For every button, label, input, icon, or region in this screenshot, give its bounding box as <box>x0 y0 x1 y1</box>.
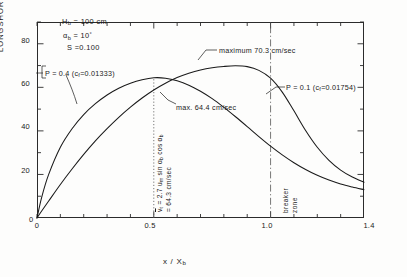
x-axis-label-text: x / X <box>163 257 183 266</box>
annotation-breaker-word: breaker <box>282 188 289 213</box>
annotation-p01-post: =0.01754) <box>321 83 356 92</box>
annotation-maximum-644: max. 64.4 cm/sec <box>176 103 236 112</box>
param-alphab-degree: ° <box>90 31 93 37</box>
param-alphab-value: = 10 <box>74 31 90 40</box>
leader-p04 <box>66 75 77 104</box>
mean-v-sub-b1: b <box>158 157 164 160</box>
param-S-symbol: S <box>67 43 72 52</box>
annotation-p01-pre: P = 0.1 (c <box>286 83 319 92</box>
mean-v-sub-m: m <box>158 178 164 182</box>
leader-p01 <box>266 87 285 94</box>
annotation-p04-pre: P = 0.4 (c <box>45 69 78 78</box>
annotation-zone-word: zone <box>291 197 298 213</box>
annotation-maximum-703: maximum 70.3 cm/sec <box>219 46 296 55</box>
mean-v-coef: = 2.7 u <box>156 182 163 207</box>
annotation-p04-post: =0.01333) <box>80 69 115 78</box>
mean-v-cos: cos α <box>156 137 163 157</box>
annotation-curve-p04: P = 0.4 (cf=0.01333) <box>45 69 115 78</box>
param-Hb-value: = 100 cm <box>74 17 107 26</box>
x-tick-14: 1.4 <box>356 221 382 230</box>
param-breaker-height: Hb = 100 cm <box>62 17 107 29</box>
x-tick-05: 0.5 <box>137 221 163 230</box>
y-tick-20: 20 <box>8 166 30 175</box>
parameter-block: Hb = 100 cm αb = 10° S =0.100 <box>62 17 107 54</box>
leader-maximum-644 <box>160 92 176 104</box>
y-axis-label: LONGSHORE CURRENT VELOCITY, v (cm/sec) <box>0 0 5 52</box>
annotation-curve-p01: P = 0.1 (cf=0.01754) <box>286 83 356 92</box>
mean-v-symbol: v <box>156 208 163 212</box>
y-tick-80: 80 <box>8 36 30 45</box>
annotation-mean-velocity-value: = 64.3 cm/sec <box>165 167 172 212</box>
curve-series-0 <box>37 78 364 218</box>
param-alphab-sub: b <box>68 34 71 40</box>
mean-v-sin: sin α <box>156 160 163 178</box>
param-S-value: =0.100 <box>75 43 100 52</box>
param-breaker-angle: αb = 10° <box>62 29 107 43</box>
mean-v-sub-b2: b <box>158 134 164 137</box>
param-Hb-sub: b <box>68 20 71 26</box>
annotation-mean-velocity-formula: vt = 2.7 um sin αb cos αb <box>156 134 164 212</box>
leader-maximum-703 <box>198 50 217 60</box>
x-tick-0: 0 <box>24 221 50 230</box>
x-tick-10: 1.0 <box>254 221 280 230</box>
x-axis-label-sub: b <box>183 259 187 266</box>
x-axis-label: x / Xb <box>163 257 187 266</box>
param-slope: S =0.100 <box>62 43 107 54</box>
figure-longshore-current-velocity: LONGSHORE CURRENT VELOCITY, v (cm/sec) 8… <box>0 0 407 277</box>
y-tick-60: 60 <box>8 79 30 88</box>
y-tick-40: 40 <box>8 122 30 131</box>
